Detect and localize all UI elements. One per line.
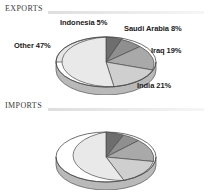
exports-chart: Indonesia 5% Saudi Arabia 8% Iraq 19% In…: [0, 0, 208, 97]
imports-pie-graphic: [52, 124, 160, 190]
exports-label-indonesia: Indonesia 5%: [60, 18, 107, 27]
exports-label-iraq: Iraq 19%: [151, 46, 181, 55]
exports-label-india: India 21%: [137, 81, 171, 90]
exports-section: EXPORTS Indonesia 5% Saudi A: [0, 0, 208, 97]
imports-chart: [0, 97, 208, 194]
exports-label-saudi-arabia: Saudi Arabia 8%: [124, 24, 182, 33]
imports-section-header: IMPORTS: [5, 101, 42, 110]
imports-section: IMPORTS France 6% Germany* 6% Iraq 16% U…: [0, 97, 208, 194]
exports-label-other: Other 47%: [14, 41, 51, 50]
exports-section-header: EXPORTS: [5, 4, 43, 13]
